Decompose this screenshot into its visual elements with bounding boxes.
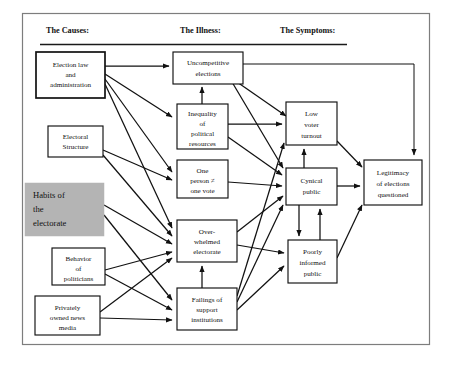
node-electoral-structure-line-2: Structure [62, 143, 88, 151]
node-news-media-line-1: Privately [55, 304, 81, 312]
edge-election-law-to-overwhelmed-electorate [105, 84, 172, 228]
node-poorly-informed-public-line-2: informed [299, 259, 325, 267]
edge-poorly-informed-public-to-legitimacy-questioned [337, 205, 362, 258]
node-legitimacy-questioned-line-3: questioned [378, 191, 409, 199]
node-one-person-one-vote-line-2: person ≠ [190, 177, 215, 185]
edge-election-law-to-inequality-resources [105, 74, 172, 117]
edge-inequality-resources-to-cynical-public [228, 137, 282, 175]
node-poorly-informed-public-line-1: Poorly [303, 248, 322, 256]
edge-behavior-politicians-to-failings-support [105, 274, 172, 310]
node-inequality-resources-line-1: Inequality [188, 110, 217, 118]
heading-illness: The Illness: [180, 26, 221, 35]
node-behavior-politicians-line-3: politicians [64, 275, 94, 283]
node-failings-support-line-2: support [196, 306, 217, 314]
node-news-media-line-3: media [59, 324, 77, 332]
node-habits-electorate-line-3: electorate [33, 218, 67, 228]
node-habits-electorate-line-2: the [33, 204, 44, 214]
node-habits-electorate[interactable]: Habits of the electorate [25, 183, 104, 236]
node-low-voter-turnout-line-2: voter [304, 121, 319, 129]
edge-election-law-to-one-person-one-vote [105, 79, 172, 172]
heading-symptoms: The Symptoms: [280, 26, 335, 35]
edge-uncompetitive-elections-to-low-voter-turnout [237, 82, 286, 116]
node-behavior-politicians[interactable]: Behavior of politicians [52, 248, 105, 285]
node-election-law-line-3: administration [50, 81, 91, 89]
node-legitimacy-questioned-line-1: Legitimacy [377, 169, 410, 177]
node-election-law-line-2: and [65, 71, 76, 79]
edge-overwhelmed-electorate-to-cynical-public [237, 196, 283, 232]
node-failings-support-line-1: Failings of [192, 296, 223, 304]
node-inequality-resources-line-2: of [200, 120, 207, 128]
node-legitimacy-questioned-line-2: of elections [377, 180, 410, 188]
node-poorly-informed-public[interactable]: Poorly informed public [288, 240, 337, 283]
node-news-media[interactable]: Privately owned news media [35, 296, 100, 335]
node-low-voter-turnout[interactable]: Low voter turnout [286, 102, 337, 145]
edge-one-person-one-vote-to-cynical-public [228, 182, 282, 186]
node-behavior-politicians-line-2: of [76, 265, 83, 273]
node-behavior-politicians-line-1: Behavior [65, 255, 92, 263]
node-low-voter-turnout-line-1: Low [305, 110, 319, 118]
edge-behavior-politicians-to-overwhelmed-electorate [105, 252, 172, 270]
node-low-voter-turnout-line-3: turnout [301, 132, 322, 140]
node-election-law[interactable]: Election law and administration [36, 52, 105, 98]
node-inequality-resources-line-3: political [191, 130, 214, 138]
node-one-person-one-vote-line-1: One [197, 167, 209, 175]
node-one-person-one-vote-line-3: one vote [190, 187, 214, 195]
node-electoral-structure-line-1: Electoral [63, 133, 89, 141]
node-cynical-public-line-1: Cynical [300, 177, 322, 185]
node-failings-support[interactable]: Failings of support institutions [177, 288, 237, 330]
edge-habits-electorate-to-failings-support [104, 215, 172, 300]
node-poorly-informed-public-line-3: public [304, 270, 322, 278]
node-cynical-public[interactable]: Cynical public [286, 168, 337, 205]
edge-low-voter-turnout-to-legitimacy-questioned [337, 141, 362, 167]
node-news-media-line-2: owned news [50, 314, 86, 322]
flow-diagram: The Causes: The Illness: The Symptoms: [0, 0, 451, 366]
node-overwhelmed-electorate-line-1: Over- [199, 228, 216, 236]
node-failings-support-line-3: institutions [191, 316, 223, 324]
edge-news-media-to-failings-support [100, 318, 172, 320]
node-overwhelmed-electorate[interactable]: Over- whelmed electorate [177, 220, 237, 262]
node-uncompetitive-elections-line-2: elections [195, 70, 220, 78]
node-uncompetitive-elections-line-1: Uncompetitive [187, 59, 229, 67]
node-cynical-public-line-2: public [303, 188, 321, 196]
node-uncompetitive-elections[interactable]: Uncompetitive elections [173, 52, 243, 84]
node-inequality-resources[interactable]: Inequality of political resources [177, 104, 228, 149]
node-election-law-line-1: Election law [53, 61, 90, 69]
node-habits-electorate-line-1: Habits of [33, 190, 65, 200]
diagram-canvas: The Causes: The Illness: The Symptoms: [0, 0, 451, 366]
heading-causes: The Causes: [46, 26, 89, 35]
node-electoral-structure[interactable]: Electoral Structure [48, 126, 103, 157]
node-overwhelmed-electorate-line-2: whelmed [194, 238, 220, 246]
node-inequality-resources-line-4: resources [189, 140, 216, 148]
node-one-person-one-vote[interactable]: One person ≠ one vote [177, 160, 228, 198]
edge-uncompetitive-elections-to-cynical-public [232, 82, 283, 168]
node-overwhelmed-electorate-line-3: electorate [193, 248, 221, 256]
node-legitimacy-questioned[interactable]: Legitimacy of elections questioned [364, 160, 422, 205]
